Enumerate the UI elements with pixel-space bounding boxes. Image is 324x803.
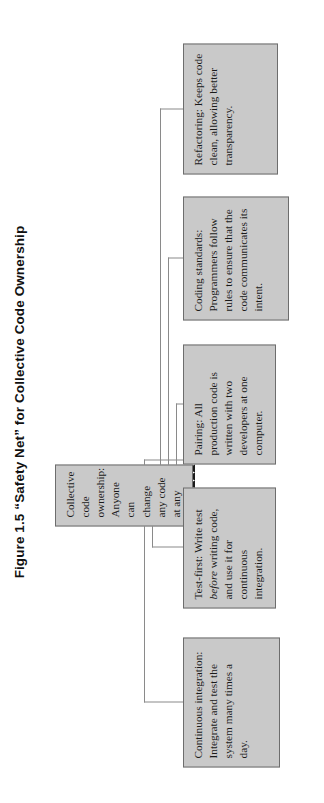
node-collective-code-ownership-label: Collective code ownership: Anyone can ch… — [63, 472, 193, 517]
connector-test-first-vertical — [152, 546, 184, 547]
connector-coding-standards-horizontal — [168, 257, 169, 484]
connector-refactoring-horizontal — [160, 108, 161, 492]
node-continuous-integration[interactable]: Continuous integration: Integrate and te… — [183, 637, 280, 767]
node-test-first[interactable]: Test-first: Write test before writing co… — [183, 487, 276, 608]
node-pairing[interactable]: Pairing: All production code is written … — [183, 344, 276, 464]
node-test-first-emphasis: before — [207, 571, 219, 599]
figure-canvas: Figure 1.5 “Safety Net” for Collective C… — [0, 0, 324, 803]
node-pairing-label: Pairing: All production code is written … — [191, 352, 266, 455]
node-refactoring-label: Refactoring: Keeps code clean, allowing … — [191, 51, 236, 165]
node-coding-standards-label: Coding standards: Programmers follow rul… — [191, 204, 266, 311]
node-coding-standards[interactable]: Coding standards: Programmers follow rul… — [183, 196, 289, 320]
node-continuous-integration-label: Continuous integration: Integrate and te… — [191, 645, 251, 758]
node-test-first-label: Test-first: Write test before writing co… — [191, 495, 266, 599]
connector-continuous-vertical — [144, 701, 184, 702]
node-refactoring[interactable]: Refactoring: Keeps code clean, allowing … — [183, 43, 278, 174]
figure-title: Figure 1.5 “Safety Net” for Collective C… — [12, 0, 27, 803]
connector-coding-standards-vertical — [168, 257, 184, 258]
node-collective-code-ownership[interactable]: Collective code ownership: Anyone can ch… — [55, 464, 193, 526]
connector-refactoring-vertical — [160, 108, 184, 109]
